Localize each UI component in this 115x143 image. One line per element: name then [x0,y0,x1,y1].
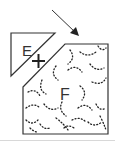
piece-f-label: F [60,86,70,103]
arrow-down-right-icon [52,10,79,36]
quilt-diagram: E [0,0,115,143]
piece-e-label: E [22,42,32,59]
